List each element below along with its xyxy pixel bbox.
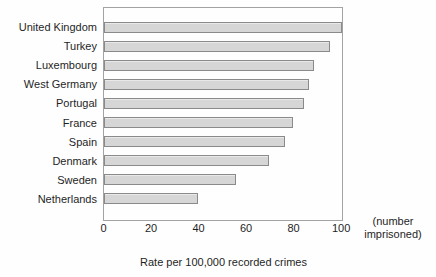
category-label: United Kingdom: [0, 17, 97, 36]
x-axis-title: Rate per 100,000 recorded crimes: [103, 256, 344, 268]
bar: [104, 22, 342, 33]
bar-row: [104, 151, 342, 170]
x-tick-label: 80: [287, 222, 299, 234]
axis-unit-note: (number imprisoned): [352, 215, 434, 241]
bar-row: [104, 75, 342, 94]
plot-area: [103, 7, 343, 221]
category-label: West Germany: [0, 75, 97, 94]
x-tick-label: 60: [240, 222, 252, 234]
bar-chart-figure: United KingdomTurkeyLuxembourgWest Germa…: [0, 0, 436, 277]
bar: [104, 174, 236, 185]
bar: [104, 41, 330, 52]
bar-row: [104, 170, 342, 189]
bar: [104, 79, 309, 90]
bar-row: [104, 113, 342, 132]
bar: [104, 155, 269, 166]
category-axis-labels: United KingdomTurkeyLuxembourgWest Germa…: [0, 7, 97, 221]
bar: [104, 60, 314, 71]
category-label: Turkey: [0, 36, 97, 55]
bar: [104, 117, 293, 128]
bar: [104, 193, 198, 204]
category-label: France: [0, 113, 97, 132]
bar-row: [104, 18, 342, 37]
x-tick-label: 100: [332, 222, 350, 234]
x-tick-label: 40: [192, 222, 204, 234]
category-label: Denmark: [0, 151, 97, 170]
category-label: Luxembourg: [0, 55, 97, 74]
x-tick-label: 0: [100, 222, 106, 234]
bar-row: [104, 37, 342, 56]
bar-row: [104, 189, 342, 208]
bar-row: [104, 94, 342, 113]
category-label: Spain: [0, 132, 97, 151]
category-label: Sweden: [0, 171, 97, 190]
x-tick-label: 20: [145, 222, 157, 234]
category-label: Netherlands: [0, 190, 97, 209]
bars-container: [104, 8, 342, 220]
bar-row: [104, 56, 342, 75]
bar: [104, 136, 285, 147]
category-label: Portugal: [0, 94, 97, 113]
bar: [104, 98, 304, 109]
bar-row: [104, 132, 342, 151]
